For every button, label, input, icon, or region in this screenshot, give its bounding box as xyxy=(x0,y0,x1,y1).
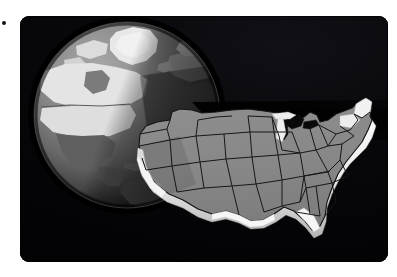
scene-stage xyxy=(0,0,397,277)
us-map-3d xyxy=(137,98,376,238)
corner-speck xyxy=(2,21,6,25)
dark-panel xyxy=(20,16,388,262)
globe-and-map-artwork xyxy=(20,16,388,262)
